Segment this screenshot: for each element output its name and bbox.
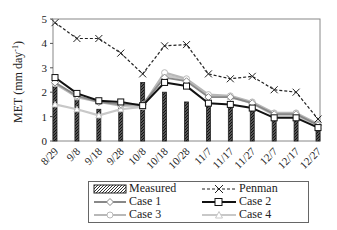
dashed-x-line-icon: [201, 184, 237, 194]
legend-label: Case 4: [239, 208, 271, 221]
y-axis: 012345: [42, 13, 54, 147]
measured-bar: [75, 97, 79, 141]
plot-area: [52, 19, 322, 141]
x-tick-label: 8/29: [38, 145, 61, 168]
y-tick-label: 0: [42, 135, 48, 147]
x-tick-label: 9/18: [82, 145, 105, 168]
x-tick-label: 10/18: [144, 145, 171, 172]
gray-diamond-line-icon: [93, 197, 127, 207]
y-tick-label: 4: [42, 37, 48, 49]
measured-bar: [316, 131, 320, 141]
x-axis: 8/299/89/189/2810/810/1810/2811/711/1711…: [38, 145, 324, 172]
measured-bar: [185, 102, 189, 141]
x-tick-label: 9/8: [64, 145, 83, 164]
y-tick-label: 1: [42, 111, 48, 123]
lightgray-triangle-line-icon: [201, 210, 237, 220]
y-axis-label: MET (mm day-1): [11, 41, 25, 123]
measured-bar: [250, 109, 254, 141]
x-tick-label: 12/17: [275, 145, 302, 172]
y-tick-label: 2: [42, 86, 48, 98]
x-tick-label: 9/28: [104, 145, 127, 168]
x-tick-label: 12/27: [297, 145, 324, 172]
y-tick-label: 3: [42, 62, 48, 74]
legend-item-case-4: Case 4: [201, 208, 271, 221]
measured-bar: [272, 119, 276, 141]
black-square-line-icon: [201, 197, 237, 207]
y-tick-label: 5: [42, 13, 48, 25]
measured-bar: [206, 104, 210, 141]
measured-bar: [141, 82, 145, 141]
x-tick-label: 11/27: [232, 145, 258, 171]
lightgray-circle-line-icon: [93, 210, 127, 220]
measured-bar: [294, 119, 298, 141]
hatched-bar-icon: [93, 184, 127, 194]
measured-bar: [53, 85, 57, 141]
chart-legend: Measured Penman Case 1 Case 2 Case 3: [88, 181, 309, 223]
x-tick-label: 11/17: [210, 145, 236, 171]
measured-bar: [228, 107, 232, 141]
legend-label: Case 3: [129, 208, 161, 221]
measured-bar: [163, 92, 167, 141]
legend-item-case-3: Case 3: [93, 208, 161, 221]
x-tick-label: 10/28: [166, 145, 193, 172]
